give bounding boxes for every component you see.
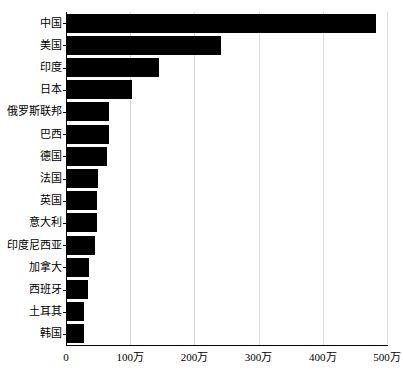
y-tick-label-7: 德国 — [40, 151, 62, 162]
y-tick-label-10: 意大利 — [29, 217, 62, 228]
y-tick-label-2: 美国 — [40, 40, 62, 51]
bar-12 — [67, 258, 89, 277]
bar-13 — [67, 280, 88, 299]
y-tick-label-14: 土耳其 — [29, 306, 62, 317]
y-tick-mark — [63, 45, 66, 46]
y-tick-mark — [63, 290, 66, 291]
bar-14 — [67, 302, 84, 321]
y-tick-mark — [63, 245, 66, 246]
x-tick-label-2: 100万 — [116, 351, 144, 363]
gridline-x-200 — [194, 12, 195, 345]
y-tick-label-3: 印度 — [40, 62, 62, 73]
y-tick-mark — [63, 223, 66, 224]
gridline-x-300 — [259, 12, 260, 345]
x-tick-label-1: 0 — [63, 351, 69, 363]
x-tick-label-4: 300万 — [245, 351, 273, 363]
plot-area — [66, 12, 387, 345]
bar-11 — [67, 236, 95, 255]
y-tick-mark — [63, 90, 66, 91]
x-tick-label-5: 400万 — [309, 351, 337, 363]
bar-4 — [67, 80, 132, 99]
y-tick-label-11: 印度尼西亚 — [7, 240, 62, 251]
y-tick-label-12: 加拿大 — [29, 262, 62, 273]
bar-10 — [67, 213, 97, 232]
bar-6 — [67, 125, 109, 144]
bar-7 — [67, 147, 107, 166]
y-tick-mark — [63, 334, 66, 335]
bar-9 — [67, 191, 97, 210]
bar-1 — [67, 14, 376, 33]
y-tick-label-4: 日本 — [40, 84, 62, 95]
y-tick-mark — [63, 68, 66, 69]
y-tick-label-6: 巴西 — [40, 129, 62, 140]
y-tick-label-5: 俄罗斯联邦 — [7, 106, 62, 117]
x-axis-line — [66, 345, 388, 346]
y-tick-mark — [63, 112, 66, 113]
y-tick-mark — [63, 201, 66, 202]
y-tick-label-8: 法国 — [40, 173, 62, 184]
bar-2 — [67, 36, 221, 55]
bar-15 — [67, 324, 84, 343]
x-tick-label-6: 500万 — [373, 351, 401, 363]
gridline-x-400 — [323, 12, 324, 345]
y-tick-label-13: 西班牙 — [29, 284, 62, 295]
bar-chart: 中国美国印度日本俄罗斯联邦巴西德国法国英国意大利印度尼西亚加拿大西班牙土耳其韩国… — [0, 0, 403, 372]
y-tick-mark — [63, 134, 66, 135]
y-tick-label-15: 韩国 — [40, 328, 62, 339]
gridline-x-500 — [387, 12, 388, 345]
y-tick-mark — [63, 179, 66, 180]
x-tick-label-3: 200万 — [181, 351, 209, 363]
bar-8 — [67, 169, 98, 188]
bar-3 — [67, 58, 159, 77]
y-tick-mark — [63, 156, 66, 157]
y-tick-label-9: 英国 — [40, 195, 62, 206]
y-tick-mark — [63, 312, 66, 313]
y-tick-mark — [63, 267, 66, 268]
y-tick-label-1: 中国 — [40, 18, 62, 29]
y-tick-mark — [63, 23, 66, 24]
bar-5 — [67, 102, 109, 121]
